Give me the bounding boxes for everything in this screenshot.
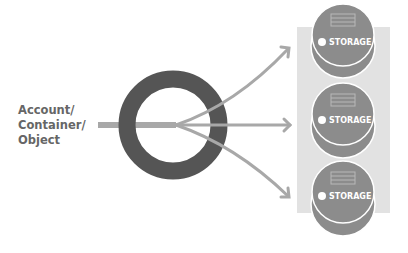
status-dot-icon <box>318 192 326 200</box>
storage-node-1: STORAGE <box>311 4 375 78</box>
storage-label: STORAGE <box>329 116 371 125</box>
status-dot-icon <box>318 116 326 124</box>
storage-label: STORAGE <box>329 38 371 47</box>
status-dot-icon <box>318 38 326 46</box>
input-bar <box>98 122 176 128</box>
storage-label: STORAGE <box>329 192 371 201</box>
storage-node-3: STORAGE <box>311 161 375 236</box>
storage-node-2: STORAGE <box>311 83 375 158</box>
ring-diagram: STORAGE STORAGE STORAGE <box>0 0 408 253</box>
